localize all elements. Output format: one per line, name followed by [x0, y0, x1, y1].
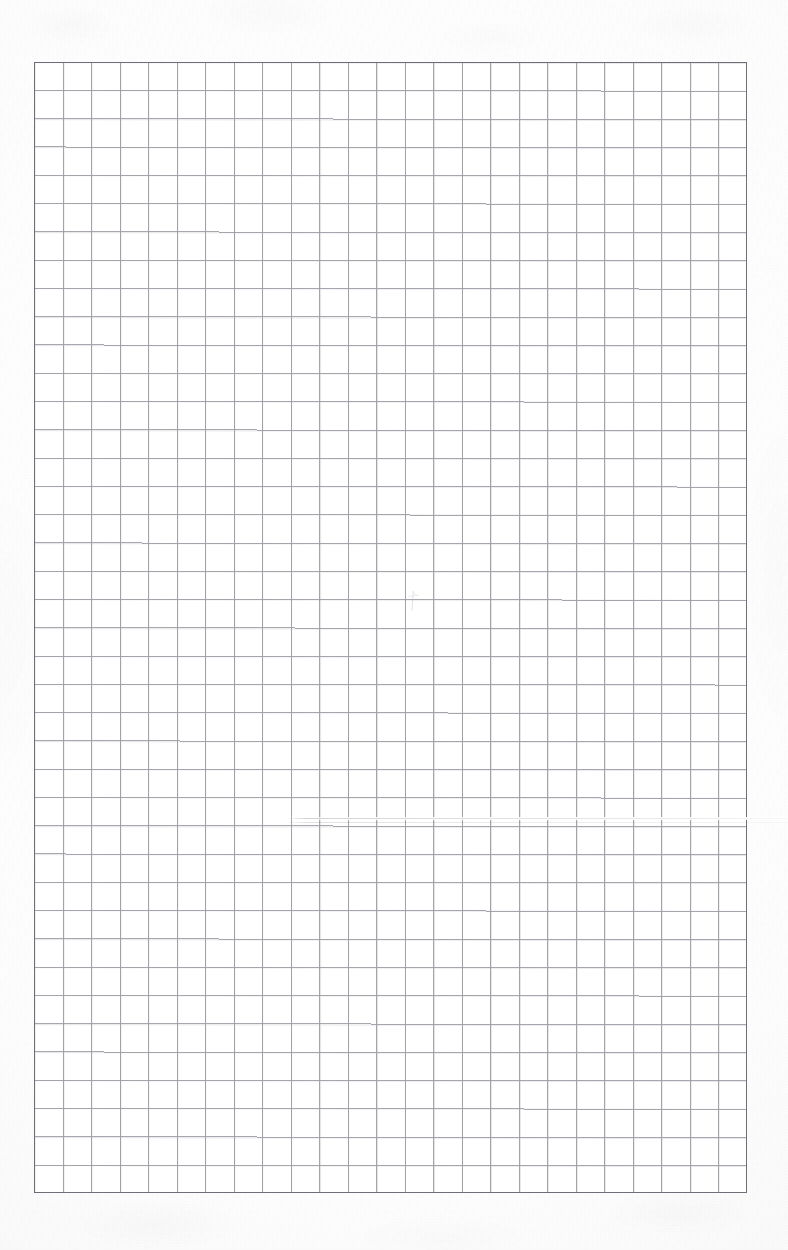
- grid-lines: [34, 62, 747, 1193]
- grid-ruling-secondary: [34, 62, 747, 1193]
- scanned-page: [0, 0, 788, 1250]
- graph-grid: [34, 62, 747, 1193]
